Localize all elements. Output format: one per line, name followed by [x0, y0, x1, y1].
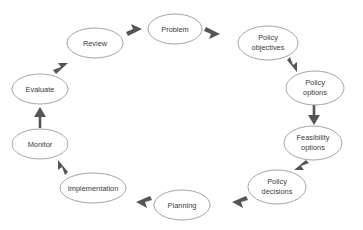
- node-review-label: Review: [83, 39, 108, 48]
- edge-policy-objectives-to-policy-options: [287, 57, 297, 72]
- node-monitor[interactable]: Monitor: [12, 129, 68, 159]
- node-policy-objectives-label-line1: Policy: [258, 33, 278, 42]
- node-policy-options-label-line2: options: [303, 88, 327, 97]
- node-evaluate-label: Evaluate: [26, 85, 55, 94]
- edge-policy-decisions-to-planning: [232, 196, 248, 208]
- node-policy-decisions[interactable]: Policy decisions: [248, 170, 306, 204]
- node-feasibility-options-label-line2: options: [301, 143, 325, 152]
- node-planning[interactable]: Planning: [154, 190, 210, 220]
- node-policy-decisions-label-line2: decisions: [262, 187, 293, 196]
- node-policy-options-label-line1: Policy: [305, 78, 325, 87]
- node-policy-options[interactable]: Policy options: [286, 71, 344, 105]
- edge-monitor-to-evaluate: [34, 107, 46, 128]
- nodes-layer: Problem Policy objectives Policy options…: [12, 14, 344, 220]
- node-implementation-label: Implementation: [68, 184, 119, 193]
- node-feasibility-options[interactable]: Feasibility options: [284, 126, 342, 160]
- node-evaluate[interactable]: Evaluate: [12, 74, 68, 104]
- node-policy-objectives-label-line2: objectives: [252, 43, 285, 52]
- node-feasibility-options-label-line1: Feasibility: [297, 133, 330, 142]
- edge-planning-to-implementation: [136, 196, 152, 208]
- edge-review-to-problem: [126, 24, 142, 36]
- node-problem-label: Problem: [161, 25, 189, 34]
- diagram-canvas: Problem Policy objectives Policy options…: [0, 0, 363, 230]
- node-policy-objectives[interactable]: Policy objectives: [238, 26, 298, 60]
- node-planning-label: Planning: [168, 201, 197, 210]
- edge-problem-to-policy-objectives: [204, 27, 220, 39]
- node-implementation[interactable]: Implementation: [60, 173, 126, 203]
- edge-policy-options-to-feasibility-options: [308, 104, 320, 125]
- policy-cycle-diagram: Problem Policy objectives Policy options…: [0, 0, 363, 230]
- node-review[interactable]: Review: [67, 28, 123, 58]
- edge-implementation-to-monitor: [58, 160, 68, 175]
- node-problem[interactable]: Problem: [148, 14, 202, 44]
- edge-evaluate-to-review: [53, 63, 68, 74]
- node-policy-decisions-label-line1: Policy: [267, 177, 287, 186]
- node-monitor-label: Monitor: [28, 140, 53, 149]
- edge-feasibility-options-to-policy-decisions: [294, 160, 309, 170]
